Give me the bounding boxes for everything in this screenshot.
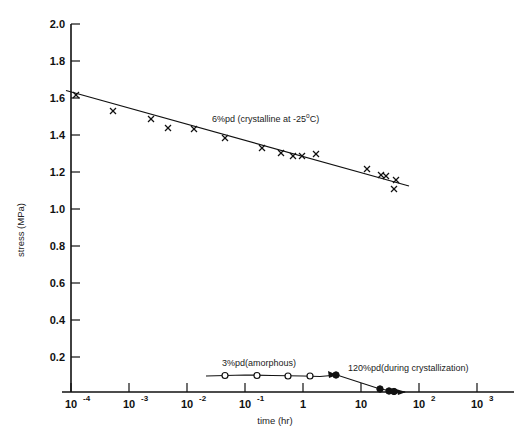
data-point-marker [222, 135, 228, 141]
data-point-marker [391, 186, 397, 192]
x-tick-base-2: 10 [181, 398, 193, 410]
data-point-marker [148, 116, 154, 122]
axis-lines [62, 24, 514, 392]
data-point-marker [254, 373, 260, 379]
series-crystalline-fit-line [66, 91, 409, 187]
svg-text:6%pd (crystalline at -25oC): 6%pd (crystalline at -25oC) [212, 112, 319, 124]
annotation-crystalline-main: 6%pd (crystalline at -25 [212, 114, 306, 124]
x-tick-label-1e2: 10 2 [413, 394, 436, 410]
x-tick-label-1e3: 10 3 [471, 394, 494, 410]
data-point-marker [222, 373, 228, 379]
x-tick-label-10: 10 [355, 398, 367, 410]
x-axis-title: time (hr) [257, 415, 292, 426]
x-axis-ticks [71, 383, 477, 392]
y-tick-label-0.8: 0.8 [50, 240, 65, 252]
y-tick-label-0.6: 0.6 [50, 277, 65, 289]
x-tick-exponent-7: 3 [489, 394, 494, 403]
y-tick-label-1.2: 1.2 [50, 166, 65, 178]
y-tick-label-1.6: 1.6 [50, 92, 65, 104]
x-tick-exponent-1: -3 [141, 394, 149, 403]
x-tick-base-5: 10 [355, 398, 367, 410]
x-tick-label-1e-1: 10 -1 [239, 394, 265, 410]
annotation-6pd-crystalline: 6%pd (crystalline at -25oC) [212, 112, 319, 124]
x-tick-exponent-0: -4 [83, 394, 91, 403]
x-axis-tick-labels: 10 -4 10 -3 10 -2 10 -1 1 10 10 2 10 3 [65, 394, 494, 410]
data-point-marker [333, 372, 339, 378]
data-point-marker [313, 151, 319, 157]
data-point-marker [259, 145, 265, 151]
data-point-marker [391, 388, 397, 394]
x-tick-label-1e-4: 10 -4 [65, 394, 91, 410]
y-axis-ticks [71, 24, 80, 357]
y-axis-title: stress (MPa) [15, 203, 26, 257]
x-tick-base-0: 10 [65, 398, 77, 410]
y-axis-tick-labels: 2.0 1.8 1.6 1.4 1.2 1.0 0.8 0.6 0.4 0.2 [50, 18, 66, 363]
y-tick-label-0.4: 0.4 [50, 314, 66, 326]
data-point-marker [165, 125, 171, 131]
y-tick-label-1.0: 1.0 [50, 203, 65, 215]
y-tick-label-2.0: 2.0 [50, 18, 65, 30]
x-tick-exponent-6: 2 [431, 394, 436, 403]
series-crystalline-markers [73, 92, 399, 192]
x-tick-label-1e-3: 10 -3 [123, 394, 149, 410]
figure-container: 2.0 1.8 1.6 1.4 1.2 1.0 0.8 0.6 0.4 0.2 … [0, 0, 522, 447]
annotation-crystalline-tail: C) [310, 114, 320, 124]
x-tick-label-1e-2: 10 -2 [181, 394, 207, 410]
data-point-marker [285, 373, 291, 379]
x-tick-base-3: 10 [239, 398, 251, 410]
annotation-120pd-crystallization: 120%pd(during crystallization) [348, 363, 469, 373]
x-tick-label-1: 1 [300, 398, 306, 410]
data-point-marker [307, 373, 313, 379]
x-tick-base-1: 10 [123, 398, 135, 410]
data-point-marker [110, 108, 116, 114]
data-point-marker [364, 166, 370, 172]
y-tick-label-1.4: 1.4 [50, 129, 66, 141]
data-point-marker [383, 173, 389, 179]
x-tick-base-6: 10 [413, 398, 425, 410]
data-point-marker [191, 126, 197, 132]
x-tick-exponent-3: -1 [257, 394, 265, 403]
chart-svg: 2.0 1.8 1.6 1.4 1.2 1.0 0.8 0.6 0.4 0.2 … [0, 0, 522, 447]
data-point-marker [377, 386, 383, 392]
x-tick-base-7: 10 [471, 398, 483, 410]
y-tick-label-1.8: 1.8 [50, 55, 65, 67]
y-tick-label-0.2: 0.2 [50, 351, 65, 363]
x-tick-base-4: 1 [300, 398, 306, 410]
x-tick-exponent-2: -2 [199, 394, 207, 403]
annotation-3pd-amorphous: 3%pd(amorphous) [222, 358, 296, 368]
